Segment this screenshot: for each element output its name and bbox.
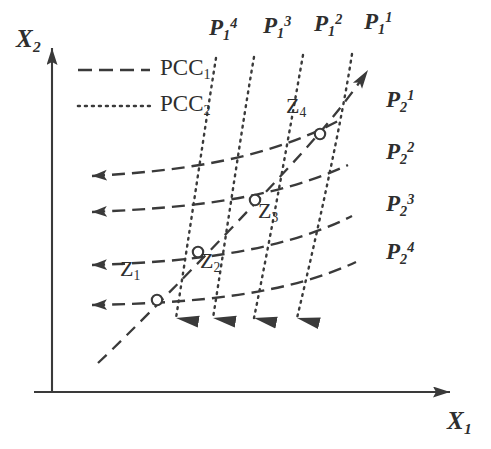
curve-label-p1-2: P12 — [314, 12, 342, 38]
curve-label-p2-2: P22 — [386, 140, 414, 166]
curve-p1-3 — [213, 57, 254, 318]
point-label-z2: Z2 — [200, 250, 220, 275]
y-axis-label: X2 — [16, 26, 41, 54]
diagram-canvas — [0, 0, 491, 449]
curve-label-p1-3: P13 — [263, 14, 291, 40]
point-label-z3: Z3 — [258, 200, 278, 225]
curve-p2-2 — [92, 165, 348, 212]
point-marker-z1 — [152, 295, 162, 305]
curve-label-p2-3: P23 — [386, 192, 414, 218]
curve-label-p2-4: P24 — [386, 240, 414, 266]
point-marker-z4 — [315, 129, 325, 139]
legend-label-pcc1: PCC1 — [160, 56, 211, 82]
expansion-path — [98, 70, 368, 363]
x-axis-label: X1 — [447, 408, 472, 436]
curve-label-p2-1: P21 — [386, 88, 414, 114]
curve-p1-1 — [297, 54, 352, 318]
point-label-z4: Z4 — [286, 95, 306, 120]
expansion-path-group — [98, 70, 368, 363]
legend-lines-group — [78, 70, 150, 106]
point-label-z1: Z1 — [120, 258, 140, 283]
curve-label-p1-4: P14 — [209, 16, 237, 42]
curve-p2-1 — [92, 120, 340, 176]
curve-label-p1-1: P11 — [364, 10, 392, 36]
legend-label-pcc2: PCC2 — [160, 92, 211, 118]
